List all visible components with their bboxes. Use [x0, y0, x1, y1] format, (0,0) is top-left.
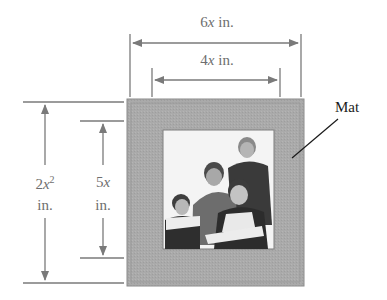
inner-width-coef: 4 [200, 52, 208, 68]
height-arrows [45, 105, 103, 280]
inner-height-var: x [103, 174, 110, 190]
inner-height-label: 5x [88, 174, 118, 190]
outer-width-unit: in. [215, 14, 234, 30]
outer-width-label: 6x in. [196, 14, 238, 30]
height-extension-lines [23, 102, 124, 283]
mat-dimension-diagram: 6x in. 4x in. 2x2 in. 5x in. Mat [0, 0, 387, 300]
inner-width-label: 4x in. [196, 52, 238, 68]
inner-height-unit: in. [88, 197, 118, 213]
mat-label: Mat [330, 99, 364, 115]
outer-width-var: x [208, 14, 215, 30]
outer-width-coef: 6 [200, 14, 208, 30]
outer-height-label: 2x2 [30, 172, 60, 192]
inner-width-unit: in. [215, 52, 234, 68]
family-photo [163, 130, 274, 249]
diagram-lines [0, 0, 387, 300]
outer-height-unit: in. [30, 197, 60, 213]
outer-height-coef: 2 [35, 176, 43, 192]
inner-width-var: x [208, 52, 215, 68]
outer-height-exp: 2 [50, 174, 55, 185]
outer-height-var: x [43, 176, 50, 192]
